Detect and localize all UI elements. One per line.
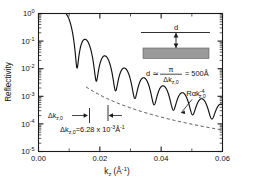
spacing-eq-delta: Δk [60, 125, 69, 134]
x-tick-label: 0.04 [154, 154, 169, 163]
formula-numerator: π [169, 65, 174, 74]
inset-thickness-label: d [174, 23, 178, 32]
env-sub: z,0 [199, 93, 206, 99]
x-tick-label: 0.00 [31, 154, 46, 163]
formula-den-sub: z,0 [172, 79, 179, 85]
x-title-unit-close: ) [127, 167, 130, 176]
spacing-eq-sub: z,0 [69, 129, 76, 135]
spacing-eq-value: =6.28 x 10 [76, 125, 111, 134]
x-tick-label: 0.06 [215, 154, 230, 163]
reflectivity-figure: 10010-110-210-310-410-5 0.000.020.040.06… [0, 0, 253, 179]
svg-text:kz (Å-1): kz (Å-1) [104, 166, 130, 177]
inset-substrate-block [143, 48, 209, 59]
plot-svg: 10010-110-210-310-410-5 0.000.020.040.06… [0, 0, 253, 179]
envelope-label: Rαk-4z,0 [186, 88, 206, 100]
formula-lhs: d [146, 69, 150, 78]
formula-approx: ≃ [153, 69, 159, 78]
x-tick-label: 0.02 [92, 154, 107, 163]
y-axis-title: Reflectivity [4, 61, 13, 101]
formula-result: = 500Å [185, 69, 209, 78]
spacing-label-sub: z,0 [56, 115, 63, 121]
spacing-eq-unit-exp: -1 [120, 124, 125, 130]
x-axis-title: kz (Å-1) [104, 166, 130, 177]
